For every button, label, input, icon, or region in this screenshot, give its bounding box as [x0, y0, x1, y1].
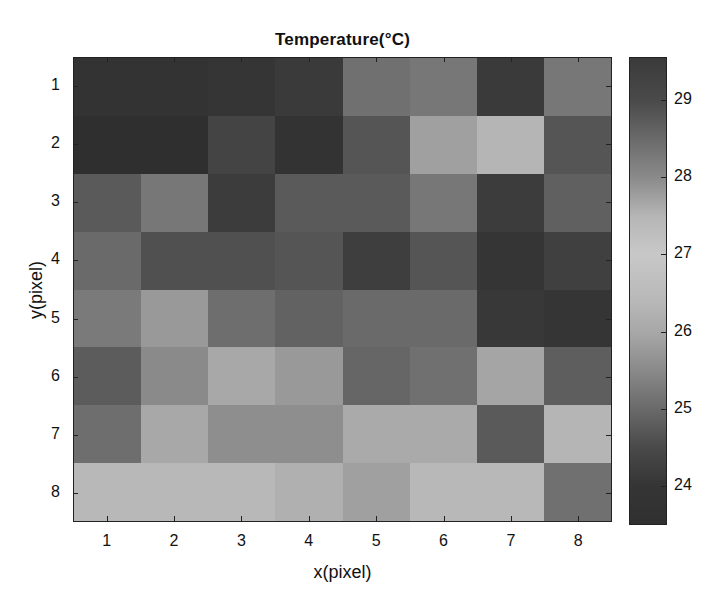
heatmap-cell	[477, 174, 544, 232]
x-tick-mark	[174, 516, 175, 521]
colorbar-tick-mark	[661, 254, 667, 255]
y-tick-mark	[73, 144, 78, 145]
x-tick-label: 7	[496, 532, 526, 550]
y-tick-label: 7	[40, 425, 60, 443]
x-tick-label: 5	[361, 532, 391, 550]
heatmap-cell	[410, 116, 477, 174]
heatmap-cell	[410, 347, 477, 405]
heatmap-cell	[74, 405, 141, 463]
heatmap-cell	[343, 463, 410, 521]
heatmap-cell	[544, 232, 611, 290]
y-tick-mark	[73, 260, 78, 261]
colorbar-tick-label: 28	[674, 167, 692, 185]
heatmap-cell	[544, 174, 611, 232]
heatmap-cell	[141, 290, 208, 348]
colorbar	[629, 57, 667, 525]
heatmap-cell	[275, 174, 342, 232]
y-tick-mark	[73, 493, 78, 494]
heatmap-cell	[544, 463, 611, 521]
heatmap-cell	[343, 174, 410, 232]
y-tick-label: 2	[40, 134, 60, 152]
heatmap-cell	[208, 174, 275, 232]
colorbar-tick-mark	[661, 409, 667, 410]
x-tick-label: 2	[159, 532, 189, 550]
y-tick-mark	[73, 319, 78, 320]
y-tick-mark	[606, 86, 611, 87]
y-tick-mark	[606, 435, 611, 436]
colorbar-tick-mark	[661, 100, 667, 101]
x-tick-label: 1	[92, 532, 122, 550]
colorbar-tick-label: 25	[674, 399, 692, 417]
y-tick-label: 6	[40, 367, 60, 385]
y-tick-mark	[606, 319, 611, 320]
heatmap-cell	[477, 463, 544, 521]
heatmap-cell	[410, 232, 477, 290]
x-tick-mark	[241, 516, 242, 521]
heatmap-cell	[410, 58, 477, 116]
heatmap-cell	[544, 405, 611, 463]
heatmap-cell	[544, 116, 611, 174]
x-tick-mark	[309, 57, 310, 62]
heatmap-cell	[208, 347, 275, 405]
heatmap-cell	[477, 290, 544, 348]
heatmap-cell	[410, 405, 477, 463]
y-tick-mark	[606, 202, 611, 203]
colorbar-tick-label: 26	[674, 322, 692, 340]
x-tick-mark	[511, 57, 512, 62]
heatmap-cell	[343, 232, 410, 290]
x-tick-mark	[578, 516, 579, 521]
colorbar-tick-label: 29	[674, 90, 692, 108]
heatmap-cell	[410, 463, 477, 521]
x-tick-mark	[578, 57, 579, 62]
heatmap-cell	[208, 232, 275, 290]
y-tick-mark	[73, 86, 78, 87]
heatmap-cell	[141, 174, 208, 232]
y-tick-label: 3	[40, 192, 60, 210]
y-tick-mark	[606, 260, 611, 261]
heatmap-cell	[208, 405, 275, 463]
x-tick-mark	[444, 57, 445, 62]
x-tick-label: 3	[226, 532, 256, 550]
x-tick-mark	[241, 57, 242, 62]
y-tick-label: 1	[40, 76, 60, 94]
heatmap-cell	[275, 232, 342, 290]
heatmap-cell	[477, 116, 544, 174]
y-tick-mark	[606, 144, 611, 145]
heatmap-cell	[74, 174, 141, 232]
y-tick-mark	[73, 377, 78, 378]
colorbar-tick-mark	[661, 332, 667, 333]
heatmap-cell	[74, 347, 141, 405]
x-tick-mark	[309, 516, 310, 521]
heatmap-cell	[208, 290, 275, 348]
y-tick-label: 8	[40, 483, 60, 501]
x-tick-label: 4	[294, 532, 324, 550]
y-tick-mark	[606, 493, 611, 494]
colorbar-tick-mark	[661, 486, 667, 487]
heatmap-cell	[343, 290, 410, 348]
heatmap-cell	[208, 116, 275, 174]
heatmap-cell	[208, 58, 275, 116]
heatmap-cell	[141, 116, 208, 174]
heatmap-cell	[74, 58, 141, 116]
x-tick-mark	[511, 516, 512, 521]
heatmap-cell	[74, 463, 141, 521]
heatmap-cell	[141, 405, 208, 463]
y-tick-mark	[73, 202, 78, 203]
heatmap-cell	[410, 174, 477, 232]
heatmap-cell	[544, 347, 611, 405]
x-tick-mark	[444, 516, 445, 521]
heatmap-cell	[74, 232, 141, 290]
heatmap-cell	[275, 116, 342, 174]
heatmap-plot-area	[73, 57, 612, 522]
x-tick-mark	[174, 57, 175, 62]
x-tick-mark	[376, 516, 377, 521]
heatmap-cell	[141, 463, 208, 521]
heatmap-cell	[275, 463, 342, 521]
heatmap-cell	[208, 463, 275, 521]
heatmap-cell	[141, 347, 208, 405]
heatmap-cell	[275, 290, 342, 348]
chart-title: Temperature(°C)	[73, 30, 612, 50]
colorbar-tick-label: 27	[674, 244, 692, 262]
heatmap-cell	[343, 405, 410, 463]
heatmap-cell	[343, 116, 410, 174]
